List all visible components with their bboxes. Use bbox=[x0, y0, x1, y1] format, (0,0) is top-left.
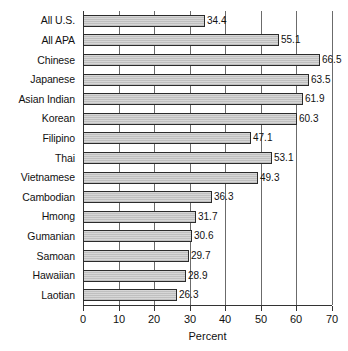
x-tick-30 bbox=[190, 306, 191, 311]
bar-value-label: 31.7 bbox=[198, 210, 217, 223]
bar-value-label: 66.5 bbox=[322, 53, 341, 66]
bar-row: 28.9 bbox=[83, 270, 348, 282]
plot-area: 34.455.166.563.561.960.347.153.149.336.3… bbox=[83, 11, 332, 305]
bar bbox=[83, 191, 212, 203]
bar-row: 66.5 bbox=[83, 54, 348, 66]
bar-value-label: 55.1 bbox=[281, 33, 300, 46]
bar-row: 31.7 bbox=[83, 211, 348, 223]
bar-row: 53.1 bbox=[83, 152, 348, 164]
x-axis-ticks bbox=[83, 306, 332, 311]
category-label: Filipino bbox=[0, 133, 75, 144]
bar-row: 36.3 bbox=[83, 191, 348, 203]
x-tick-label: 30 bbox=[184, 313, 196, 326]
x-tick-label: 20 bbox=[148, 313, 160, 326]
bar bbox=[83, 113, 297, 125]
bar-row: 29.7 bbox=[83, 250, 348, 262]
bar-value-label: 26.3 bbox=[179, 288, 198, 301]
category-label: Thai bbox=[0, 153, 75, 164]
bar-row: 60.3 bbox=[83, 113, 348, 125]
category-label: Laotian bbox=[0, 290, 75, 301]
x-tick-label: 0 bbox=[80, 313, 86, 326]
bar-row: 26.3 bbox=[83, 289, 348, 301]
x-axis-tick-labels: 010203040506070 bbox=[83, 313, 332, 327]
category-label: Samoan bbox=[0, 251, 75, 262]
bar-value-label: 60.3 bbox=[299, 112, 318, 125]
x-tick-label: 40 bbox=[219, 313, 231, 326]
category-label: Vietnamese bbox=[0, 172, 75, 183]
x-tick-40 bbox=[225, 306, 226, 311]
x-tick-label: 10 bbox=[113, 313, 125, 326]
bar bbox=[83, 230, 192, 242]
category-label: Gumanian bbox=[0, 231, 75, 242]
x-tick-70 bbox=[332, 306, 333, 311]
category-label: Cambodian bbox=[0, 192, 75, 203]
x-tick-label: 50 bbox=[255, 313, 267, 326]
bar-value-label: 49.3 bbox=[260, 171, 279, 184]
bar-value-label: 61.9 bbox=[305, 92, 324, 105]
bar bbox=[83, 172, 258, 184]
x-tick-50 bbox=[261, 306, 262, 311]
x-tick-0 bbox=[83, 306, 84, 311]
bar-row: 30.6 bbox=[83, 230, 348, 242]
bar-value-label: 30.6 bbox=[194, 229, 213, 242]
category-label: All APA bbox=[0, 35, 75, 46]
bar-value-label: 47.1 bbox=[253, 131, 272, 144]
x-axis-title: Percent bbox=[83, 330, 332, 343]
category-label: Hmong bbox=[0, 211, 75, 222]
category-label: All U.S. bbox=[0, 15, 75, 26]
bar-value-label: 36.3 bbox=[214, 190, 233, 203]
bar bbox=[83, 289, 177, 301]
bar-row: 61.9 bbox=[83, 93, 348, 105]
bar-value-label: 29.7 bbox=[191, 249, 210, 262]
x-tick-label: 70 bbox=[326, 313, 338, 326]
bar bbox=[83, 15, 205, 27]
bar-row: 34.4 bbox=[83, 15, 348, 27]
category-label: Chinese bbox=[0, 55, 75, 66]
category-label: Hawaiian bbox=[0, 270, 75, 281]
bar-row: 63.5 bbox=[83, 74, 348, 86]
x-tick-label: 60 bbox=[290, 313, 302, 326]
bar-row: 55.1 bbox=[83, 34, 348, 46]
bar bbox=[83, 54, 320, 66]
bar bbox=[83, 211, 196, 223]
bar-row: 47.1 bbox=[83, 132, 348, 144]
bar bbox=[83, 250, 189, 262]
bar-row: 49.3 bbox=[83, 172, 348, 184]
category-label: Japanese bbox=[0, 74, 75, 85]
bar bbox=[83, 74, 309, 86]
horizontal-bar-chart: All U.S.All APAChineseJapaneseAsian Indi… bbox=[0, 0, 348, 351]
x-tick-10 bbox=[119, 306, 120, 311]
bar-value-label: 53.1 bbox=[274, 151, 293, 164]
x-tick-20 bbox=[154, 306, 155, 311]
bar bbox=[83, 132, 251, 144]
bars-layer: 34.455.166.563.561.960.347.153.149.336.3… bbox=[83, 11, 332, 305]
bar bbox=[83, 270, 186, 282]
bar bbox=[83, 93, 303, 105]
bar-value-label: 28.9 bbox=[188, 269, 207, 282]
bar bbox=[83, 152, 272, 164]
bar bbox=[83, 34, 279, 46]
bar-value-label: 34.4 bbox=[207, 14, 226, 27]
category-label: Korean bbox=[0, 113, 75, 124]
bar-value-label: 63.5 bbox=[311, 73, 330, 86]
x-tick-60 bbox=[296, 306, 297, 311]
category-axis: All U.S.All APAChineseJapaneseAsian Indi… bbox=[0, 11, 79, 305]
category-label: Asian Indian bbox=[0, 94, 75, 105]
